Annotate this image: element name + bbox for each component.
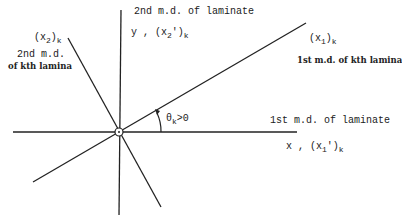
laminate-y-axis [119, 10, 121, 215]
lamina-1st-md-label: 1st m.d. of kth lamina [297, 55, 402, 66]
x-axis-label: x , (x1')k [286, 141, 344, 155]
theta-angle-arc [157, 113, 161, 132]
lamina-2nd-md-label-line1: 2nd m.d. [17, 49, 65, 60]
lamina-x1-label: (x1)k [309, 33, 337, 47]
y-axis-label: y , (x2')k [131, 27, 189, 41]
lamina-2nd-md-axis [68, 38, 161, 207]
lamina-1st-md-axis [33, 23, 306, 182]
laminate-2nd-md-label: 2nd m.d. of laminate [134, 6, 254, 17]
lamina-x2-label: (x2)k [34, 32, 62, 46]
lamina-2nd-md-label-line2: of kth lamina [8, 61, 72, 72]
theta-label: θk>0 [166, 113, 189, 127]
laminate-1st-md-label: 1st m.d. of laminate [270, 115, 390, 126]
